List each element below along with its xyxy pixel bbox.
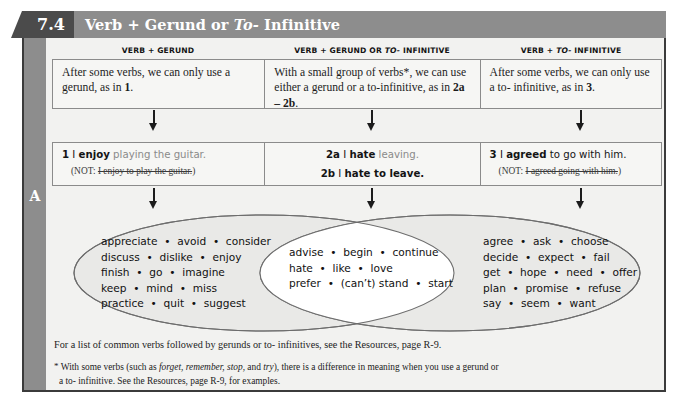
chart-number: 7.4 — [22, 11, 74, 38]
example-2b-number: 2b — [321, 168, 335, 179]
example-gerund-negative: (NOT: I enjoy to play the guitar.) — [62, 165, 255, 179]
example-infinitive-subject: I — [497, 149, 506, 160]
description-row: After some verbs, we can only use a geru… — [52, 59, 662, 109]
example-gerund-verb: enjoy — [79, 149, 110, 160]
venn-both-line: hate • like • love — [289, 261, 453, 277]
description-infinitive-end: . — [592, 81, 595, 94]
venn-gerund-line: keep • mind • miss — [101, 281, 271, 297]
footnote: * With some verbs (such as forget, remem… — [54, 360, 662, 388]
column-header-both-text: VERB + GERUND OR — [294, 46, 385, 55]
venn-both-line: prefer • (can’t) stand • start — [289, 276, 453, 292]
chart-title-italic: To- — [234, 16, 259, 33]
column-header-infinitive: VERB + TO- INFINITIVE — [480, 42, 662, 59]
column-header-both-italic: TO- — [385, 46, 400, 55]
chart-title-prefix: Verb + Gerund or — [85, 16, 234, 33]
description-infinitive: After some verbs, we can only use a to- … — [480, 60, 661, 108]
example-2b-subject: I — [335, 168, 344, 179]
arrow-down-icon — [574, 110, 588, 132]
grammar-chart-page: 7.4 Verb + Gerund or To- Infinitive A VE… — [0, 0, 674, 411]
chart-header-bar: 7.4 Verb + Gerund or To- Infinitive — [22, 11, 666, 38]
chart-content: VERB + GERUND VERB + GERUND OR TO- INFIN… — [46, 38, 664, 390]
arrow-down-icon — [147, 188, 161, 210]
venn-gerund-line: finish • go • imagine — [101, 265, 271, 281]
arrow-down-icon — [365, 110, 379, 132]
example-2a-verb: hate — [349, 149, 375, 160]
example-gerund-not-prefix: (NOT: — [71, 166, 98, 176]
example-row: 1 I enjoy playing the guitar.(NOT: I enj… — [52, 142, 662, 186]
example-both-a: 2a I hate leaving. — [274, 148, 470, 163]
column-header-infinitive-suffix: INFINITIVE — [572, 46, 622, 55]
example-gerund: 1 I enjoy playing the guitar.(NOT: I enj… — [53, 143, 264, 185]
arrow-down-icon — [147, 110, 161, 132]
example-both-b: 2b I hate to leave. — [274, 167, 470, 182]
venn-list-gerund-only: appreciate • avoid • considerdiscuss • d… — [101, 234, 271, 312]
example-gerund-not-suffix: ) — [192, 166, 195, 176]
example-both: 2a I hate leaving.2b I hate to leave. — [264, 143, 479, 185]
example-2b-verb: hate — [345, 168, 371, 179]
description-both-end: . — [295, 97, 298, 110]
venn-infinitive-line: say • seem • want — [483, 296, 637, 312]
venn-list-infinitive-only: agree • ask • choosedecide • expect • fa… — [483, 234, 637, 312]
venn-infinitive-line: agree • ask • choose — [483, 234, 637, 250]
example-infinitive-not-struck: I agreed going with him. — [525, 166, 617, 176]
description-gerund-text: After some verbs, we can only use a geru… — [62, 66, 230, 94]
description-gerund: After some verbs, we can only use a geru… — [53, 60, 264, 108]
footnote-verbs-2: try — [263, 362, 273, 372]
column-headers: VERB + GERUND VERB + GERUND OR TO- INFIN… — [52, 42, 662, 59]
example-infinitive: 3 I agreed to go with him.(NOT: I agreed… — [480, 143, 661, 185]
venn-diagram: appreciate • avoid • considerdiscuss • d… — [46, 210, 668, 336]
resources-note: For a list of common verbs followed by g… — [54, 339, 654, 350]
venn-gerund-line: appreciate • avoid • consider — [101, 234, 271, 250]
example-infinitive-complement: to go with him. — [546, 149, 626, 160]
venn-list-both: advise • begin • continuehate • like • l… — [289, 245, 453, 292]
example-2a-subject: I — [340, 149, 349, 160]
description-both: With a small group of verbs*, we can use… — [264, 60, 479, 108]
footnote-text-b: and — [245, 362, 263, 372]
column-header-both-suffix: INFINITIVE — [400, 46, 450, 55]
description-gerund-end: . — [130, 81, 133, 94]
venn-infinitive-line: decide • expect • fail — [483, 250, 637, 266]
footnote-text-d: a to- infinitive. See the Resources, pag… — [54, 374, 662, 388]
arrow-down-icon — [365, 188, 379, 210]
column-header-gerund-text: VERB + GERUND — [122, 46, 194, 55]
venn-both-line: advise • begin • continue — [289, 245, 453, 261]
description-both-text: With a small group of verbs*, we can use… — [274, 66, 466, 94]
example-2a-complement: leaving. — [375, 149, 419, 160]
column-header-gerund: VERB + GERUND — [52, 42, 264, 59]
example-infinitive-number: 3 — [490, 149, 497, 160]
footnote-text-a: With some verbs (such as — [59, 362, 159, 372]
example-infinitive-not-suffix: ) — [618, 166, 621, 176]
chart-title: Verb + Gerund or To- Infinitive — [74, 11, 666, 38]
venn-gerund-line: discuss • dislike • enjoy — [101, 250, 271, 266]
chart-title-suffix: Infinitive — [259, 16, 340, 33]
footnote-verbs-1: forget, remember, stop, — [159, 362, 245, 372]
footnote-text-c: ), there is a difference in meaning when… — [274, 362, 499, 372]
example-infinitive-not-prefix: (NOT: — [499, 166, 526, 176]
section-sidebar: A — [24, 38, 46, 390]
example-gerund-subject: I — [69, 149, 78, 160]
example-infinitive-negative: (NOT: I agreed going with him.) — [490, 165, 652, 179]
chart-panel: A VERB + GERUND VERB + GERUND OR TO- INF… — [22, 38, 666, 392]
example-2b-complement: to leave. — [371, 168, 425, 179]
example-infinitive-verb: agreed — [506, 149, 546, 160]
venn-infinitive-line: plan • promise • refuse — [483, 281, 637, 297]
arrow-down-icon — [574, 188, 588, 210]
column-header-infinitive-text: VERB + — [521, 46, 556, 55]
column-header-infinitive-italic: TO- — [556, 46, 571, 55]
venn-infinitive-line: get • hope • need • offer — [483, 265, 637, 281]
example-2a-number: 2a — [326, 149, 340, 160]
venn-gerund-line: practice • quit • suggest — [101, 296, 271, 312]
example-gerund-not-struck: I enjoy to play the guitar. — [98, 166, 192, 176]
example-gerund-complement: playing the guitar. — [110, 149, 206, 160]
section-label: A — [24, 188, 46, 204]
column-header-both: VERB + GERUND OR TO- INFINITIVE — [264, 42, 480, 59]
description-infinitive-text: After some verbs, we can only use a to- … — [490, 66, 650, 94]
